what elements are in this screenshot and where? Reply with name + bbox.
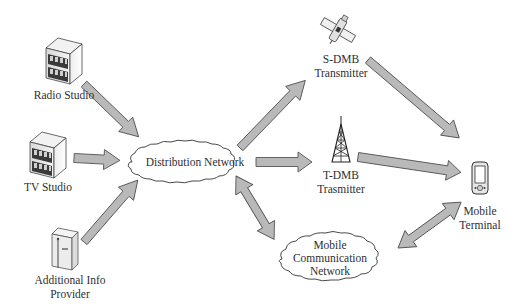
mobile-terminal-label: Mobile Terminal xyxy=(452,204,508,232)
arrow-tv-to-distribution xyxy=(73,148,120,170)
radio-studio-building-icon xyxy=(46,38,82,84)
mobile-comm-label-line2: Communication xyxy=(284,252,376,265)
tv-studio-building-icon xyxy=(30,132,66,178)
sdmb-label-line1: S-DMB xyxy=(306,52,376,66)
tdmb-label: T-DMB Trasmitter xyxy=(306,168,376,196)
info-provider-label-line1: Additional Info xyxy=(28,273,112,287)
mobile-terminal-label-line2: Terminal xyxy=(452,218,508,232)
info-provider-label-line2: Provider xyxy=(28,287,112,301)
mobile-terminal-pda-icon xyxy=(472,162,488,194)
arrow-radio-to-distribution xyxy=(77,77,146,144)
arrow-info-to-distribution xyxy=(76,174,145,249)
arrow-distribution-mobilecomm-bidirectional xyxy=(227,171,282,245)
diagram-graphics xyxy=(0,0,532,307)
tdmb-label-line2: Trasmitter xyxy=(306,182,376,196)
sdmb-satellite-icon xyxy=(314,7,361,53)
tv-studio-label: TV Studio xyxy=(14,180,82,194)
mobile-comm-label-line3: Network xyxy=(284,265,376,278)
sdmb-label-line2: Transmitter xyxy=(306,66,376,80)
arrow-sdmb-to-terminal xyxy=(362,52,466,145)
mobile-terminal-label-line1: Mobile xyxy=(452,204,508,218)
arrow-distribution-to-tdmb xyxy=(256,152,312,172)
tdmb-label-line1: T-DMB xyxy=(306,168,376,182)
sdmb-label: S-DMB Transmitter xyxy=(306,52,376,80)
mobile-comm-label-line1: Mobile xyxy=(284,239,376,252)
radio-studio-label: Radio Studio xyxy=(26,88,102,102)
tdmb-antenna-tower-icon xyxy=(332,116,350,162)
info-provider-server-icon xyxy=(52,228,78,270)
dmb-architecture-diagram: Radio Studio TV Studio Additional Info P… xyxy=(0,0,532,307)
mobile-communication-network-label: Mobile Communication Network xyxy=(284,239,376,278)
distribution-network-label: Distribution Network xyxy=(136,156,254,169)
info-provider-label: Additional Info Provider xyxy=(28,273,112,301)
arrow-distribution-to-sdmb xyxy=(233,73,313,155)
